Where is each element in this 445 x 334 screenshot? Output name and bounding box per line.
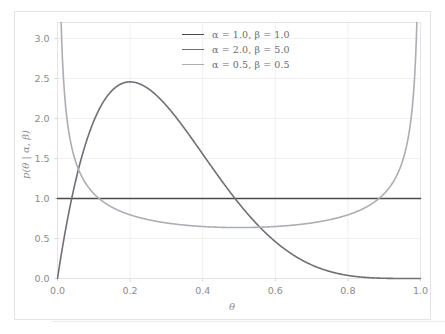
x-tick-label: 0.0 xyxy=(38,285,78,296)
y-tick-label: 2.0 xyxy=(10,113,50,124)
x-tick-label: 0.6 xyxy=(255,285,295,296)
x-tick-label: 1.0 xyxy=(401,285,441,296)
y-tick-label: 3.0 xyxy=(10,33,50,44)
x-axis-title: θ xyxy=(229,301,235,312)
legend-item: α = 0.5, β = 0.5 xyxy=(182,57,290,72)
legend-item: α = 1.0, β = 1.0 xyxy=(182,27,290,42)
x-tick-label: 0.8 xyxy=(328,285,368,296)
legend-item: α = 2.0, β = 5.0 xyxy=(182,42,290,57)
y-tick-label: 0.0 xyxy=(10,273,50,284)
legend-label: α = 0.5, β = 0.5 xyxy=(212,59,290,70)
legend-line-swatch xyxy=(182,49,204,50)
tick-marks xyxy=(55,39,421,282)
legend-label: α = 1.0, β = 1.0 xyxy=(212,29,290,40)
curve-beta-2-5 xyxy=(58,82,421,279)
x-tick-label: 0.4 xyxy=(183,285,223,296)
legend-line-swatch xyxy=(182,64,204,65)
x-tick-label: 0.2 xyxy=(110,285,150,296)
figure-canvas: 0.00.20.40.60.81.00.00.51.01.52.02.53.0 … xyxy=(0,0,445,334)
legend-label: α = 2.0, β = 5.0 xyxy=(212,44,290,55)
y-axis-title: p(θ | α, β) xyxy=(20,130,31,179)
chart-legend: α = 1.0, β = 1.0α = 2.0, β = 5.0α = 0.5,… xyxy=(182,27,290,72)
y-tick-label: 2.5 xyxy=(10,73,50,84)
y-tick-label: 0.5 xyxy=(10,233,50,244)
y-tick-label: 1.0 xyxy=(10,193,50,204)
figure-bottom-rule xyxy=(52,321,445,322)
legend-line-swatch xyxy=(182,34,204,35)
